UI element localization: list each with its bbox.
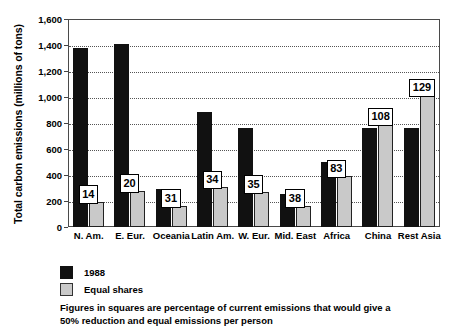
y-axis-tick-label: 1,600 xyxy=(22,14,62,25)
x-axis-category-label: N. Am. xyxy=(74,230,104,241)
percentage-box: 20 xyxy=(120,174,139,193)
bar-equal-shares xyxy=(213,187,228,227)
y-axis-tick-label: 200 xyxy=(22,196,62,207)
y-axis-tick-label: 800 xyxy=(22,118,62,129)
y-axis-tick-label: 600 xyxy=(22,144,62,155)
carbon-emissions-bar-chart: Total carbon emissions (millions of tons… xyxy=(0,0,462,329)
percentage-box: 31 xyxy=(161,189,180,208)
x-axis-category-label: China xyxy=(365,230,391,241)
y-axis-tick-label: 0 xyxy=(22,222,62,233)
bar-equal-shares xyxy=(89,202,104,227)
bar-group: 20 xyxy=(109,19,150,227)
legend-label: Equal shares xyxy=(84,284,143,295)
x-axis-category-label: Mid. East xyxy=(274,230,316,241)
y-axis-tick-label: 400 xyxy=(22,170,62,181)
percentage-box: 129 xyxy=(409,79,434,98)
bar-group: 129 xyxy=(399,19,440,227)
x-axis-category-label: Africa xyxy=(323,230,350,241)
bar-equal-shares xyxy=(130,191,145,227)
bar-equal-shares xyxy=(254,192,269,227)
x-axis-category-label: W. Eur. xyxy=(238,230,270,241)
x-axis-category-label: Latin Am. xyxy=(191,230,234,241)
percentage-box: 35 xyxy=(244,175,263,194)
gray-square-icon xyxy=(60,283,73,296)
bar-equal-shares xyxy=(378,124,393,227)
legend-label: 1988 xyxy=(84,267,105,278)
chart-footnote: Figures in squares are percentage of cur… xyxy=(60,302,400,327)
bar-1988 xyxy=(197,112,212,227)
y-axis-tick-label: 1,200 xyxy=(22,66,62,77)
bar-group: 31 xyxy=(151,19,192,227)
bar-1988 xyxy=(362,128,377,227)
bar-equal-shares xyxy=(172,206,187,227)
percentage-box: 38 xyxy=(285,189,304,208)
bar-groups: 14203134353883108129 xyxy=(68,19,440,227)
y-axis-tick-label: 1,400 xyxy=(22,40,62,51)
bar-equal-shares xyxy=(420,95,435,227)
bar-group: 108 xyxy=(357,19,398,227)
bar-group: 34 xyxy=(192,19,233,227)
percentage-box: 14 xyxy=(79,185,98,204)
percentage-box: 34 xyxy=(203,171,222,190)
bar-1988 xyxy=(404,128,419,227)
x-axis-category-label: Rest Asia xyxy=(398,230,441,241)
bar-equal-shares xyxy=(337,176,352,227)
x-axis-category-label: E. Eur. xyxy=(115,230,145,241)
percentage-box: 83 xyxy=(327,160,346,179)
black-square-icon xyxy=(60,266,73,279)
bar-1988 xyxy=(114,44,129,227)
x-axis-category-label: Oceania xyxy=(153,230,190,241)
y-axis-tick-label: 1,000 xyxy=(22,92,62,103)
bar-group: 83 xyxy=(316,19,357,227)
bar-group: 38 xyxy=(275,19,316,227)
y-axis-tick-mark xyxy=(64,227,68,228)
bar-group: 35 xyxy=(233,19,274,227)
bar-group: 14 xyxy=(68,19,109,227)
percentage-box: 108 xyxy=(368,108,393,127)
bar-equal-shares xyxy=(296,206,311,227)
